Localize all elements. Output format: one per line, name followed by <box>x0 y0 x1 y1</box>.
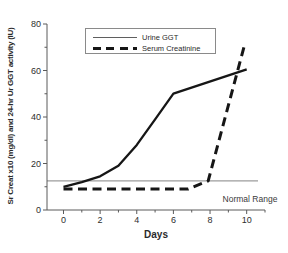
x-tick-label: 0 <box>61 215 66 225</box>
y-tick-label: 80 <box>31 19 41 29</box>
legend-label-urine-ggt: Urine GGT <box>142 33 178 42</box>
series-line-urine-ggt <box>64 69 247 187</box>
dashed-line-sample <box>93 47 137 50</box>
x-tick-label: 6 <box>171 215 176 225</box>
legend-item-serum-creatinine: Serum Creatinine <box>93 43 215 54</box>
legend: Urine GGT Serum Creatinine <box>85 28 216 54</box>
solid-line-sample <box>93 37 137 38</box>
x-axis-title: Days <box>126 229 186 240</box>
x-tick-label: 10 <box>242 215 252 225</box>
y-tick-label: 60 <box>31 66 41 76</box>
x-tick-label: 2 <box>98 215 103 225</box>
legend-item-urine-ggt: Urine GGT <box>93 32 215 43</box>
y-axis-title: Sr Creat x10 (mg/dl) and 24-hr Ur GGT ac… <box>6 0 18 235</box>
x-tick-label: 8 <box>208 215 213 225</box>
y-tick-label: 20 <box>31 159 41 169</box>
y-tick-label: 0 <box>36 205 41 215</box>
legend-label-serum-creatinine: Serum Creatinine <box>142 44 200 53</box>
normal-range-label: Normal Range <box>218 194 282 204</box>
x-tick-label: 4 <box>134 215 139 225</box>
series-line-serum-creatinine <box>64 47 244 189</box>
y-tick-label: 40 <box>31 112 41 122</box>
figure: 0246810020406080 Sr Creat x10 (mg/dl) an… <box>0 0 288 253</box>
